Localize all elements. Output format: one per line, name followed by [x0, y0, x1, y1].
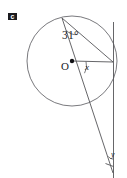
- inscribed-angle-label: 31°: [62, 30, 79, 42]
- part-label-c: c: [8, 13, 17, 20]
- center-point-dot: [70, 59, 74, 63]
- radius-to-tangent-point: [72, 61, 113, 62]
- circle-geometry-diagram: [0, 0, 127, 178]
- geometry-figure: c 31° O x y: [0, 0, 127, 178]
- center-label: O: [61, 61, 69, 72]
- exterior-angle-label-y: y: [111, 151, 115, 159]
- right-angle-mark: [106, 164, 114, 167]
- central-angle-label-x: x: [85, 63, 89, 72]
